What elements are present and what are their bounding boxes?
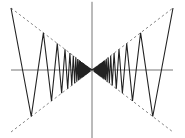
function-plot [0,0,185,138]
